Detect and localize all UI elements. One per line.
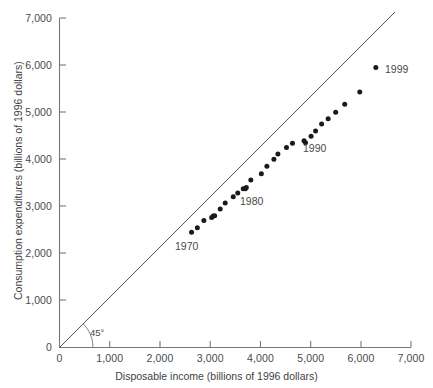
- data-point: [357, 89, 362, 94]
- data-point: [290, 141, 295, 146]
- x-axis-title: Disposable income (billions of 1996 doll…: [0, 370, 433, 382]
- data-point-group: [189, 65, 378, 235]
- data-point: [201, 218, 206, 223]
- chart-figure: 7,000 6,000 5,000 4,000 3,000 2,000 1,00…: [0, 0, 433, 388]
- forty-five-degree-label: 45°: [90, 327, 104, 338]
- annotation-1999: 1999: [385, 63, 408, 75]
- data-point: [248, 177, 253, 182]
- data-point: [326, 116, 331, 121]
- data-point: [189, 230, 194, 235]
- data-point: [333, 110, 338, 115]
- data-point: [342, 102, 347, 107]
- data-point: [264, 164, 269, 169]
- data-point: [373, 65, 378, 70]
- data-point: [313, 128, 318, 133]
- annotation-1970: 1970: [175, 240, 198, 252]
- data-point: [223, 200, 228, 205]
- axis-ticks: [60, 18, 412, 348]
- data-point: [319, 121, 324, 126]
- x-tick-label-1000: 1,000: [96, 352, 123, 364]
- forty-five-degree-line: [60, 12, 396, 348]
- data-point: [195, 225, 200, 230]
- x-tick-label-4000: 4,000: [247, 352, 274, 364]
- data-point: [284, 145, 289, 150]
- annotation-1990: 1990: [303, 142, 326, 154]
- x-tick-label-3000: 3,000: [197, 352, 224, 364]
- x-tick-label-2000: 2,000: [147, 352, 174, 364]
- x-tick-label-7000: 7,000: [398, 352, 425, 364]
- y-axis-title: Consumption expenditures (billions of 19…: [12, 61, 24, 300]
- data-point: [271, 157, 276, 162]
- x-tick-label-5000: 5,000: [297, 352, 324, 364]
- y-tick-label-7000: 7,000: [8, 12, 52, 24]
- scatter-plot-canvas: [0, 0, 433, 388]
- axis-lines: [60, 18, 412, 348]
- data-point: [218, 207, 223, 212]
- data-point: [259, 171, 264, 176]
- data-point: [309, 134, 314, 139]
- x-tick-label-6000: 6,000: [348, 352, 375, 364]
- data-point: [275, 152, 280, 157]
- data-point: [244, 185, 249, 190]
- data-point: [212, 213, 217, 218]
- y-tick-label-0: 0: [8, 341, 52, 353]
- data-point: [231, 194, 236, 199]
- x-tick-label-0: 0: [57, 352, 63, 364]
- annotation-1980: 1980: [240, 195, 263, 207]
